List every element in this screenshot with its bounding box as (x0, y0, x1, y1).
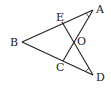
geometry-figure: A E B O C D (0, 0, 111, 91)
angle-mark-d (86, 68, 89, 71)
point-label-a: A (96, 4, 104, 15)
segment-ed (62, 22, 93, 75)
point-label-b: B (10, 37, 18, 48)
angle-mark-a (86, 13, 89, 17)
point-label-d: D (96, 72, 105, 83)
point-label-o: O (77, 36, 86, 47)
point-label-e: E (56, 12, 64, 23)
point-label-c: C (56, 62, 64, 73)
